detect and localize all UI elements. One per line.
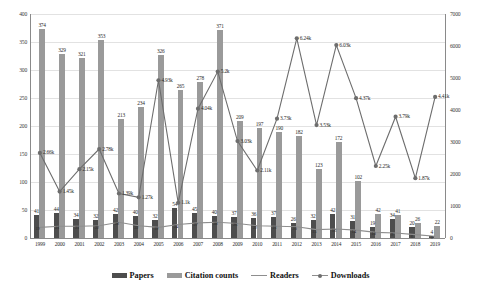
x-axis-label: 2013 <box>307 241 327 247</box>
y-axis-tick-left: 0 <box>1 235 27 241</box>
data-label-readers: 20 <box>292 226 296 231</box>
data-label-downloads: 3.53k <box>320 122 331 128</box>
y-axis-tick-right: 4000 <box>450 107 480 113</box>
y-axis-tick-left: 150 <box>1 151 27 157</box>
data-label-downloads: 1.45k <box>63 188 74 194</box>
data-label-readers: 22 <box>134 225 138 230</box>
data-label-downloads: 4.41k <box>438 93 449 99</box>
y-axis-tick-left: 100 <box>1 179 27 185</box>
data-label-downloads: 3.03k <box>241 138 252 144</box>
data-label-readers: 26 <box>233 222 237 227</box>
x-axis-line <box>30 238 445 239</box>
y-axis-tick-right: 7000 <box>450 11 480 17</box>
data-label-downloads: 2.66k <box>43 149 54 155</box>
data-label-readers: 19 <box>35 226 39 231</box>
legend-item[interactable]: Citation counts <box>167 271 238 280</box>
legend-swatch-line <box>312 273 328 278</box>
data-label-readers: 14 <box>352 229 356 234</box>
chart-container: 0501001502002503003504000100020003000400… <box>0 0 481 282</box>
data-label-readers: 10 <box>371 231 375 236</box>
x-axis-label: 1999 <box>30 241 50 247</box>
data-point-downloads <box>295 36 299 40</box>
x-axis-label: 2014 <box>326 241 346 247</box>
legend-swatch-line <box>251 273 267 278</box>
x-axis-label: 2018 <box>405 241 425 247</box>
x-axis-label: 2009 <box>228 241 248 247</box>
line-series-layer <box>30 14 445 238</box>
data-point-downloads <box>97 147 101 151</box>
y-axis-tick-left: 50 <box>1 207 27 213</box>
data-point-downloads <box>38 151 42 155</box>
y-axis-line-right <box>445 14 446 238</box>
y-axis-tick-right: 1000 <box>450 203 480 209</box>
data-label-downloads: 1.39k <box>122 190 133 196</box>
data-label-downloads: 4.37k <box>359 95 370 101</box>
legend-label: Downloads <box>331 271 370 280</box>
y-axis-tick-left: 350 <box>1 39 27 45</box>
x-axis-label: 2011 <box>267 241 287 247</box>
data-label-readers: 3 <box>431 235 433 240</box>
data-point-downloads <box>216 70 220 74</box>
data-label-readers: 22 <box>253 225 257 230</box>
legend-label: Citation counts <box>185 271 238 280</box>
data-point-downloads <box>196 107 200 111</box>
x-axis-label: 2004 <box>129 241 149 247</box>
data-label-downloads: 5.2k <box>221 68 230 74</box>
x-axis-label: 2005 <box>148 241 168 247</box>
x-axis-label: 2003 <box>109 241 129 247</box>
x-axis-label: 2010 <box>247 241 267 247</box>
data-point-downloads <box>156 78 160 82</box>
line-downloads <box>40 38 435 202</box>
data-label-readers: 6 <box>411 234 413 239</box>
data-label-readers: 27 <box>193 222 197 227</box>
x-axis-label: 2001 <box>69 241 89 247</box>
data-point-downloads <box>413 176 417 180</box>
data-label-readers: 19 <box>154 226 158 231</box>
data-point-downloads <box>117 191 121 195</box>
data-label-readers: 28 <box>114 221 118 226</box>
legend-marker-dot-icon <box>318 274 322 278</box>
data-point-downloads <box>58 190 62 194</box>
y-axis-tick-right: 3000 <box>450 139 480 145</box>
data-label-downloads: 2.25k <box>379 163 390 169</box>
y-axis-tick-right: 2000 <box>450 171 480 177</box>
data-label-readers: 9 <box>391 232 393 237</box>
x-axis-label: 2016 <box>366 241 386 247</box>
data-label-downloads: 6.03k <box>339 42 350 48</box>
x-axis-label: 2007 <box>188 241 208 247</box>
x-axis-label: 2017 <box>386 241 406 247</box>
legend-item[interactable]: Downloads <box>312 271 370 280</box>
data-label-downloads: 1.1k <box>181 199 190 205</box>
x-axis-label: 2012 <box>287 241 307 247</box>
x-axis-label: 2006 <box>168 241 188 247</box>
data-label-downloads: 2.11k <box>260 167 271 173</box>
legend-label: Readers <box>270 271 299 280</box>
data-point-downloads <box>433 95 437 99</box>
data-label-downloads: 3.79k <box>399 113 410 119</box>
data-point-downloads <box>77 167 81 171</box>
data-label-downloads: 6.24k <box>300 35 311 41</box>
data-label-readers: 24 <box>174 224 178 229</box>
data-point-downloads <box>314 123 318 127</box>
y-axis-tick-left: 300 <box>1 67 27 73</box>
data-label-readers: 21 <box>55 225 59 230</box>
y-axis-tick-left: 200 <box>1 123 27 129</box>
data-label-readers: 21 <box>75 225 79 230</box>
data-point-downloads <box>176 201 180 205</box>
data-label-downloads: 1.27k <box>142 194 153 200</box>
data-label-downloads: 2.78k <box>102 146 113 152</box>
legend-swatch-bar <box>112 273 127 278</box>
y-axis-tick-right: 0 <box>450 235 480 241</box>
chart-legend: PapersCitation countsReadersDownloads <box>0 271 481 280</box>
data-label-readers: 22 <box>95 225 99 230</box>
x-axis-label: 2019 <box>425 241 445 247</box>
y-axis-tick-left: 250 <box>1 95 27 101</box>
data-label-readers: 16 <box>332 228 336 233</box>
x-axis-label: 2002 <box>89 241 109 247</box>
x-axis-label: 2015 <box>346 241 366 247</box>
data-label-readers: 28 <box>213 221 217 226</box>
x-axis-label: 2008 <box>208 241 228 247</box>
legend-item[interactable]: Papers <box>112 271 154 280</box>
legend-item[interactable]: Readers <box>251 271 299 280</box>
data-point-downloads <box>334 43 338 47</box>
